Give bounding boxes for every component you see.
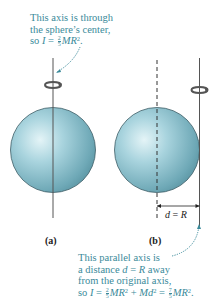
dimension-line xyxy=(157,204,200,208)
dimension-label: d = R xyxy=(165,209,187,220)
annotation-center-axis: This axis is through the sphere’s center… xyxy=(30,12,113,47)
panel-label-a: (a) xyxy=(45,235,57,246)
panel-label-b: (b) xyxy=(149,235,161,246)
fraction: 25 xyxy=(58,36,61,47)
annotation-line: the sphere’s center, xyxy=(30,24,113,36)
fraction: 75 xyxy=(169,288,172,299)
annotation-line: This axis is through xyxy=(30,12,113,24)
annotation-parallel-axis: This parallel axis is a distance d = R a… xyxy=(78,252,194,299)
annotation-line: from the original axis, xyxy=(78,275,194,287)
annotation-formula: so I = 25MR2. xyxy=(30,35,113,47)
annotation-formula: so I = 25MR2 + Md2 = 75MR2. xyxy=(78,287,194,299)
leader-arrow-icon xyxy=(57,47,80,72)
panel-a xyxy=(11,47,96,218)
fraction: 25 xyxy=(106,288,109,299)
annotation-line: This parallel axis is xyxy=(78,252,194,264)
annotation-line: a distance d = R away xyxy=(78,264,194,276)
panel-b xyxy=(115,58,209,256)
